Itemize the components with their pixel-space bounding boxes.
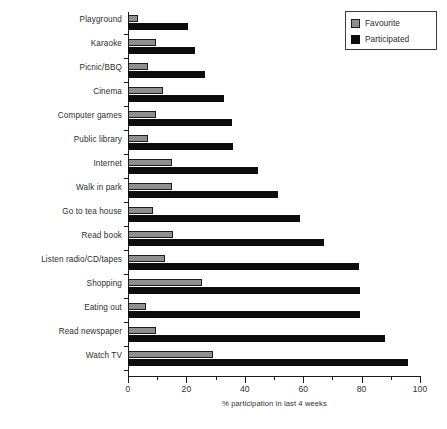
- category-label: Computer games: [58, 111, 122, 120]
- bar-favourite: [128, 255, 165, 262]
- x-axis-tick-label: 20: [182, 384, 192, 394]
- category-label: Go to tea house: [62, 207, 122, 216]
- bar-row: Internet: [128, 156, 420, 180]
- bar-participated: [128, 335, 385, 342]
- bar-participated: [128, 71, 205, 78]
- x-axis-tick: [245, 377, 246, 383]
- x-axis-tick: [362, 377, 363, 383]
- x-axis-minor-tick: [332, 377, 333, 380]
- x-axis-minor-tick: [274, 377, 275, 380]
- y-axis-tick: [124, 370, 128, 371]
- x-axis-tick: [128, 377, 129, 383]
- bar-favourite: [128, 63, 148, 70]
- bar-row: Read book: [128, 228, 420, 252]
- y-axis-tick: [124, 154, 128, 155]
- bar-row: Shopping: [128, 276, 420, 300]
- y-axis-tick: [124, 58, 128, 59]
- x-axis-title: % participation in last 4 weeks: [128, 399, 421, 408]
- bar-favourite: [128, 39, 156, 46]
- x-axis-tick-label: 80: [357, 384, 367, 394]
- bar-favourite: [128, 87, 163, 94]
- bar-row: Eating out: [128, 300, 420, 324]
- y-axis-tick: [124, 178, 128, 179]
- x-axis-tick-label: 60: [298, 384, 308, 394]
- bar-favourite: [128, 231, 173, 238]
- bar-row: Read newspaper: [128, 324, 420, 348]
- bar-favourite: [128, 111, 156, 118]
- y-axis-tick: [124, 82, 128, 83]
- y-axis-tick: [124, 34, 128, 35]
- bar-row: Listen radio/CD/tapes: [128, 252, 420, 276]
- bar-participated: [128, 239, 324, 246]
- x-axis-tick: [303, 377, 304, 383]
- bar-favourite: [128, 303, 146, 310]
- y-axis-tick: [124, 274, 128, 275]
- bar-row: Cinema: [128, 84, 420, 108]
- bar-participated: [128, 95, 224, 102]
- y-axis-tick: [124, 346, 128, 347]
- category-label: Playground: [80, 15, 122, 24]
- legend-swatch-favourite: [351, 19, 360, 28]
- bar-row: Walk in park: [128, 180, 420, 204]
- bar-row: Picnic/BBQ: [128, 60, 420, 84]
- bar-chart: PlaygroundKaraokePicnic/BBQCinemaCompute…: [0, 0, 447, 429]
- y-axis-tick: [124, 298, 128, 299]
- category-label: Public library: [74, 135, 122, 144]
- legend-label-participated: Participated: [365, 34, 409, 44]
- bar-participated: [128, 287, 360, 294]
- y-axis-tick: [124, 130, 128, 131]
- y-axis-tick: [124, 106, 128, 107]
- category-label: Shopping: [87, 279, 122, 288]
- x-axis-tick-label: 100: [413, 384, 427, 394]
- category-label: Karaoke: [91, 39, 122, 48]
- plot-area: PlaygroundKaraokePicnic/BBQCinemaCompute…: [128, 12, 420, 372]
- bar-participated: [128, 47, 195, 54]
- bar-participated: [128, 143, 233, 150]
- bar-favourite: [128, 351, 213, 358]
- bar-participated: [128, 191, 278, 198]
- category-label: Picnic/BBQ: [80, 63, 122, 72]
- x-axis-tick: [420, 377, 421, 383]
- x-axis-tick-label: 40: [240, 384, 250, 394]
- bar-participated: [128, 311, 360, 318]
- category-label: Watch TV: [86, 351, 122, 360]
- y-axis-tick: [124, 226, 128, 227]
- bar-participated: [128, 119, 232, 126]
- bar-favourite: [128, 15, 138, 22]
- x-axis-minor-tick: [391, 377, 392, 380]
- bar-row: Public library: [128, 132, 420, 156]
- legend-item-favourite: Favourite: [351, 16, 431, 30]
- bar-favourite: [128, 159, 172, 166]
- category-label: Read newspaper: [59, 327, 122, 336]
- category-label: Internet: [93, 159, 122, 168]
- bar-favourite: [128, 183, 172, 190]
- x-axis-tick-label: 0: [126, 384, 131, 394]
- x-axis-minor-tick: [216, 377, 217, 380]
- category-label: Walk in park: [76, 183, 122, 192]
- bar-row: Computer games: [128, 108, 420, 132]
- bar-favourite: [128, 327, 156, 334]
- category-label: Eating out: [84, 303, 122, 312]
- y-axis-tick: [124, 202, 128, 203]
- legend-swatch-participated: [351, 35, 360, 44]
- bar-row: Go to tea house: [128, 204, 420, 228]
- legend: Favourite Participated: [345, 11, 437, 50]
- x-axis-tick: [186, 377, 187, 383]
- x-axis-ticks: 020406080100: [128, 377, 421, 401]
- bar-participated: [128, 167, 258, 174]
- bar-favourite: [128, 135, 148, 142]
- category-label: Listen radio/CD/tapes: [41, 255, 122, 264]
- y-axis-tick: [124, 322, 128, 323]
- category-label: Cinema: [93, 87, 122, 96]
- bar-participated: [128, 23, 188, 30]
- bar-row: Watch TV: [128, 348, 420, 372]
- y-axis-tick: [124, 250, 128, 251]
- bar-participated: [128, 263, 359, 270]
- category-label: Read book: [81, 231, 122, 240]
- bar-participated: [128, 215, 300, 222]
- bar-favourite: [128, 279, 202, 286]
- bar-participated: [128, 359, 408, 366]
- x-axis-minor-tick: [157, 377, 158, 380]
- bar-favourite: [128, 207, 153, 214]
- legend-label-favourite: Favourite: [365, 18, 400, 28]
